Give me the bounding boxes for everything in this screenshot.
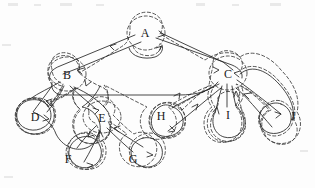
arrowhead-cross-mid (174, 93, 180, 99)
tour-e-to-g (107, 128, 133, 152)
scan-noise (2, 3, 308, 178)
tour-b-to-e (70, 86, 96, 109)
node-label-c: C (224, 67, 232, 81)
contour-group (15, 12, 300, 169)
tour-b-to-d (30, 82, 60, 99)
node-label-a: A (141, 26, 150, 40)
tour-a-lower-pinch (129, 45, 163, 58)
node-label-f: F (65, 152, 72, 166)
arrowhead-c-in-right (234, 71, 240, 77)
diagram-canvas: A B C D E H I J F G (0, 0, 315, 188)
node-label-b: B (63, 68, 71, 82)
tour-loop-f (69, 136, 102, 167)
node-label-i: I (226, 108, 230, 122)
tour-c-to-h (172, 84, 219, 108)
arrowhead-i-out (234, 91, 239, 97)
arrowhead-g-in (147, 152, 153, 157)
arrowhead-c-in-left (213, 67, 219, 73)
tree-euler-tour-figure: A B C D E H I J F G (0, 0, 315, 188)
contour-subtree-a (16, 12, 301, 143)
arrowhead-g-out (114, 126, 120, 132)
arrowhead-h-in (169, 126, 175, 132)
node-label-e: E (98, 111, 105, 125)
node-label-j: J (291, 109, 296, 123)
tour-c-to-j (237, 80, 281, 114)
tour-subtree-c-outline (240, 69, 293, 120)
node-label-h: H (157, 109, 166, 123)
node-label-d: D (31, 110, 40, 124)
contour-subtree-c (150, 51, 297, 145)
tour-f-to-e (84, 130, 100, 162)
node-label-g: G (129, 152, 138, 166)
tour-b-to-a-return (63, 42, 141, 74)
